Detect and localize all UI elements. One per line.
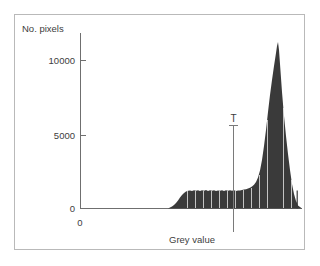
y-tick-label-0: 0 (70, 203, 75, 214)
y-tick-label-5000: 5000 (54, 130, 75, 141)
threshold-label: T (230, 113, 236, 124)
x-tick-label-0: 0 (77, 217, 82, 228)
histogram-area (81, 42, 303, 209)
histogram-figure: No. pixels 10000 5000 0 0 T Grey value (0, 0, 320, 266)
y-tick-label-10000: 10000 (49, 55, 75, 66)
histogram-bars (81, 42, 303, 209)
histogram-edge-spike (297, 191, 298, 209)
y-axis-title: No. pixels (22, 23, 64, 34)
histogram-plot: No. pixels 10000 5000 0 0 T Grey value (0, 0, 320, 266)
x-axis-title: Grey value (169, 234, 215, 245)
